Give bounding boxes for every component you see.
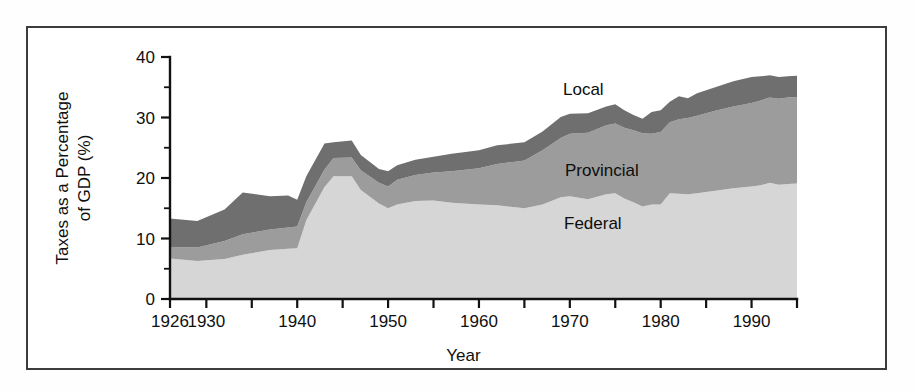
figure-container: 0102030401926193019401950196019701980199… [0,0,914,392]
area-bands [170,75,797,299]
x-tick-label: 1960 [460,312,498,331]
y-tick-label: 40 [136,48,155,67]
figure-border: 0102030401926193019401950196019701980199… [26,26,887,370]
x-tick-label: 1940 [278,312,316,331]
series-label-provincial: Provincial [565,161,639,180]
y-tick-label: 0 [146,290,155,309]
x-axis-title: Year [446,346,481,365]
y-tick-label: 30 [136,109,155,128]
x-tick-label: 1970 [551,312,589,331]
y-tick-label: 10 [136,230,155,249]
y-axis-title-line1: Taxes as a Percentage [53,92,72,265]
series-label-local: Local [563,80,604,99]
y-tick-label: 20 [136,169,155,188]
series-label-federal: Federal [564,214,622,233]
x-tick-label: 1980 [642,312,680,331]
x-tick-label: 1990 [733,312,771,331]
x-tick-label: 1950 [369,312,407,331]
x-tick-label: 1930 [187,312,225,331]
stacked-area-chart: 0102030401926193019401950196019701980199… [28,28,885,368]
x-tick-label: 1926 [151,312,189,331]
y-axis-title-line2: of GDP (%) [75,135,94,222]
